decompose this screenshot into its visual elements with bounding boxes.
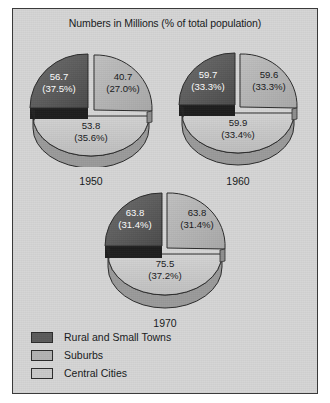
chart-title: Numbers in Millions (% of total populati… <box>13 17 317 29</box>
pie-chart-1970: 63.8 (31.4%) 63.8 (31.4%) 75.5 (37.2%) 1… <box>95 177 235 329</box>
pie-1970-graphic <box>95 177 235 309</box>
legend-label-central-cities: Central Cities <box>64 367 127 379</box>
pie-chart-1960: 59.7 (33.3%) 59.6 (33.3%) 59.9 (33.4%) 1… <box>168 37 308 187</box>
year-label-1970: 1970 <box>95 317 235 329</box>
legend-label-suburbs: Suburbs <box>64 349 103 361</box>
pie-chart-1950: 56.7 (37.5%) 40.7 (27.0%) 53.8 (35.6%) 1… <box>21 37 161 187</box>
pie-1960-graphic <box>168 37 308 167</box>
chart-figure: Numbers in Millions (% of total populati… <box>12 8 318 394</box>
legend-swatch-central-cities <box>31 368 53 379</box>
legend-swatch-suburbs <box>31 350 53 361</box>
chart-legend: Rural and Small Towns Suburbs Central Ci… <box>31 329 171 383</box>
legend-item-central-cities: Central Cities <box>31 365 171 381</box>
legend-item-rural-and-small-towns: Rural and Small Towns <box>31 329 171 345</box>
legend-label-rural-and-small-towns: Rural and Small Towns <box>64 331 171 343</box>
legend-swatch-rural-and-small-towns <box>31 332 53 343</box>
legend-item-suburbs: Suburbs <box>31 347 171 363</box>
pie-1950-graphic <box>21 37 161 167</box>
